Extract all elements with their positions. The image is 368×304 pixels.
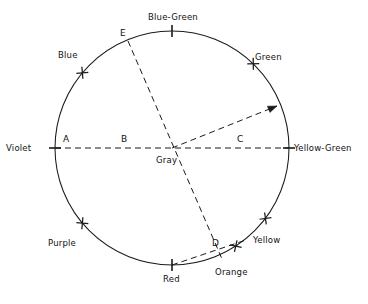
segment-label-d: D	[212, 239, 219, 248]
hue-label-red: Red	[163, 275, 180, 284]
hue-label-violet: Violet	[6, 144, 31, 153]
hue-label-green: Green	[255, 53, 282, 62]
hue-label-purple: Purple	[48, 239, 76, 248]
center-label-gray: Gray	[156, 156, 177, 165]
dashed-line-red-to-yellow-chord	[172, 240, 246, 265]
segment-label-a: A	[63, 135, 69, 144]
hue-label-blue-green: Blue-Green	[148, 13, 198, 22]
tick-purple-b	[82, 217, 83, 229]
hue-label-yellow: Yellow	[253, 236, 280, 245]
hue-label-orange: Orange	[215, 268, 248, 277]
tick-yellow-b	[259, 218, 271, 220]
tick-blue-b	[76, 72, 88, 73]
dashed-line-gray-to-circumference-vector	[172, 106, 277, 148]
color-wheel-figure: Violet Blue Blue-Green Green Yellow-Gree…	[0, 0, 368, 304]
segment-label-c: C	[237, 135, 243, 144]
hue-label-blue: Blue	[58, 51, 78, 60]
hue-label-yellow-green: Yellow-Green	[294, 144, 352, 153]
segment-label-e: E	[120, 29, 126, 38]
arrowhead-gray-to-circumference-vector	[267, 106, 277, 112]
segment-label-b: B	[121, 135, 127, 144]
dashed-line-E-D-diagonal	[128, 41, 222, 259]
